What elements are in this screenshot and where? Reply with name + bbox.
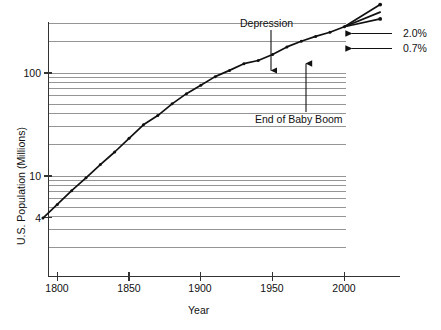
data-point [128,137,131,140]
data-point [214,75,217,78]
data-point [99,163,102,166]
data-point [300,40,303,43]
data-point [242,62,245,65]
data-point [328,31,331,34]
data-point [56,203,59,206]
x-tick-label-1900: 1900 [179,283,221,294]
x-tick-label-1850: 1850 [108,283,150,294]
data-point [285,45,288,48]
gridlines [49,24,346,248]
axis-lines [49,22,401,277]
data-point [156,114,159,117]
data-point [228,69,231,72]
chart-figure: 100 10 4 1800 1850 1900 1950 2000 Year U… [0,0,441,330]
data-point [85,176,88,179]
x-axis-title: Year [188,305,209,316]
data-point [142,123,145,126]
x-tick-label-1950: 1950 [251,283,293,294]
data-point [41,217,44,220]
data-point [70,189,73,192]
x-tick-label-1800: 1800 [36,283,78,294]
y-tick-label-100: 100 [13,68,41,79]
data-point [171,102,174,105]
projection-end-point [378,17,382,21]
rate-label-high: 2.0% [403,28,427,39]
projection-end-point [378,3,382,7]
data-point [199,84,202,87]
annotation-depression: Depression [240,18,293,29]
x-tick-label-2000: 2000 [323,283,365,294]
annotation-end-of-baby-boom: End of Baby Boom [255,114,343,125]
y-axis-title: U.S. Population (Millions) [16,127,27,245]
data-point [314,35,317,38]
projection-fan [344,3,382,27]
rate-label-low: 0.7% [403,43,427,54]
data-point [257,59,260,62]
data-point [185,92,188,95]
semilog-population-chart [0,0,441,330]
data-point [113,151,116,154]
